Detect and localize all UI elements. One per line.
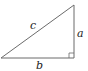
- vertical-leg-label: a: [77, 27, 84, 40]
- hypotenuse-label: c: [30, 19, 36, 32]
- triangle-shape: [1, 5, 74, 58]
- right-angle-marker: [69, 53, 74, 58]
- horizontal-leg-label: b: [36, 59, 43, 71]
- right-triangle-diagram: c a b: [0, 0, 88, 71]
